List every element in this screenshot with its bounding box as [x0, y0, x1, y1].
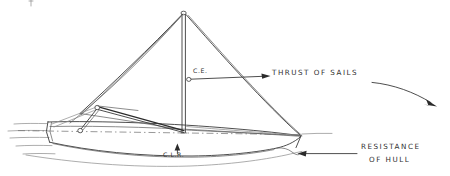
resistance-force-arrow	[297, 151, 357, 157]
mast	[181, 11, 187, 133]
jib-sail	[70, 14, 183, 130]
center-of-effort-label: C.E.	[193, 68, 208, 74]
resistance-of-hull-label-line2: OF HULL	[369, 156, 410, 163]
water-surface-right	[302, 133, 332, 134]
sailboat-force-diagram: THRUST OF SAILS RESISTANCE OF HULL C.E. …	[0, 0, 450, 176]
bow-rigging	[52, 107, 95, 127]
resistance-of-hull-label-line1: RESISTANCE	[361, 143, 420, 150]
center-of-effort-marker	[187, 77, 191, 81]
stray-pencil-mark	[29, 0, 33, 6]
center-of-lateral-resistance-label: C.L.R.	[163, 152, 184, 158]
thrust-force-arrow	[190, 73, 270, 79]
water-lines	[8, 123, 55, 154]
thrust-of-sails-label: THRUST OF SAILS	[272, 69, 358, 76]
sweep-curve-arrow	[372, 82, 437, 106]
